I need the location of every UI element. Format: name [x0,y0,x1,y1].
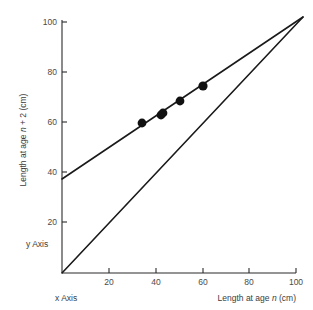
data-point [138,119,147,128]
x-tick-label-100: 100 [289,277,303,287]
y-axis-tick-labels: 100 80 60 40 20 [43,17,57,227]
chart-figure: 100 80 60 40 20 20 40 60 80 100 [0,0,313,310]
x-axis-tick-labels: 20 40 60 80 100 [104,277,303,287]
x-axis-ticks [109,268,296,273]
y-tick-label-20: 20 [48,217,58,227]
y-axis-title-suffix: + 2 (cm) [18,93,28,125]
y-tick-label-40: 40 [48,167,58,177]
y-axis-title: Length at age n + 2 (cm) [18,93,28,186]
data-point [176,97,185,106]
x-axis-corner-label: x Axis [55,293,77,303]
x-axis-title: Length at age n (cm) [218,293,297,303]
y-axis-title-group: Length at age n + 2 (cm) [18,93,28,186]
y-axis-corner-label: y Axis [26,239,48,249]
x-axis-title-plain: Length at age [218,293,270,303]
x-tick-label-60: 60 [198,277,208,287]
y-tick-label-80: 80 [48,67,58,77]
scatter-plot-svg: 100 80 60 40 20 20 40 60 80 100 [0,0,313,310]
y-tick-label-100: 100 [43,17,57,27]
x-tick-label-40: 40 [151,277,161,287]
x-tick-label-20: 20 [104,277,114,287]
y-axis-title-plain: Length at age [18,134,28,186]
y-tick-label-60: 60 [48,117,58,127]
x-tick-label-80: 80 [244,277,254,287]
x-axis-title-unit: (cm) [279,293,296,303]
data-point [159,109,168,118]
y-axis-ticks [62,22,67,222]
identity-reference-line [62,17,303,273]
data-point [198,81,207,90]
